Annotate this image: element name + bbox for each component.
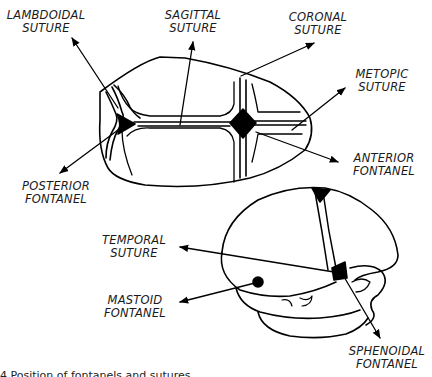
label-line: FONTANEL [98, 307, 172, 320]
skull-side-view [221, 188, 398, 338]
label-posterior-fontanel: POSTERIOR FONTANEL [18, 180, 94, 206]
label-mastoid-fontanel: MASTOID FONTANEL [98, 294, 172, 320]
label-line: SUTURE [98, 247, 170, 260]
label-metopic-suture: METOPIC SUTURE [350, 68, 414, 94]
skull-diagram: LAMBDOIDAL SUTURE SAGITTAL SUTURE CORONA… [0, 0, 432, 377]
label-lambdoidal-suture: LAMBDOIDAL SUTURE [6, 9, 86, 35]
label-coronal-suture: CORONAL SUTURE [283, 11, 353, 37]
label-line: FONTANEL [346, 165, 422, 178]
label-anterior-fontanel: ANTERIOR FONTANEL [346, 152, 422, 178]
skull-top-view [100, 57, 312, 186]
figure-caption: 4 Position of fontanels and sutures [0, 369, 432, 377]
caption-text: 4 Position of fontanels and sutures [0, 369, 432, 377]
label-line: SUTURE [6, 22, 86, 35]
label-line: SUTURE [283, 24, 353, 37]
label-line: FONTANEL [18, 193, 94, 206]
label-temporal-suture: TEMPORAL SUTURE [98, 234, 170, 260]
label-sagittal-suture: SAGITTAL SUTURE [158, 9, 228, 35]
label-sphenoidal-fontanel: SPHENOIDAL FONTANEL [346, 345, 428, 371]
label-line: SUTURE [350, 81, 414, 94]
label-line: SUTURE [158, 22, 228, 35]
